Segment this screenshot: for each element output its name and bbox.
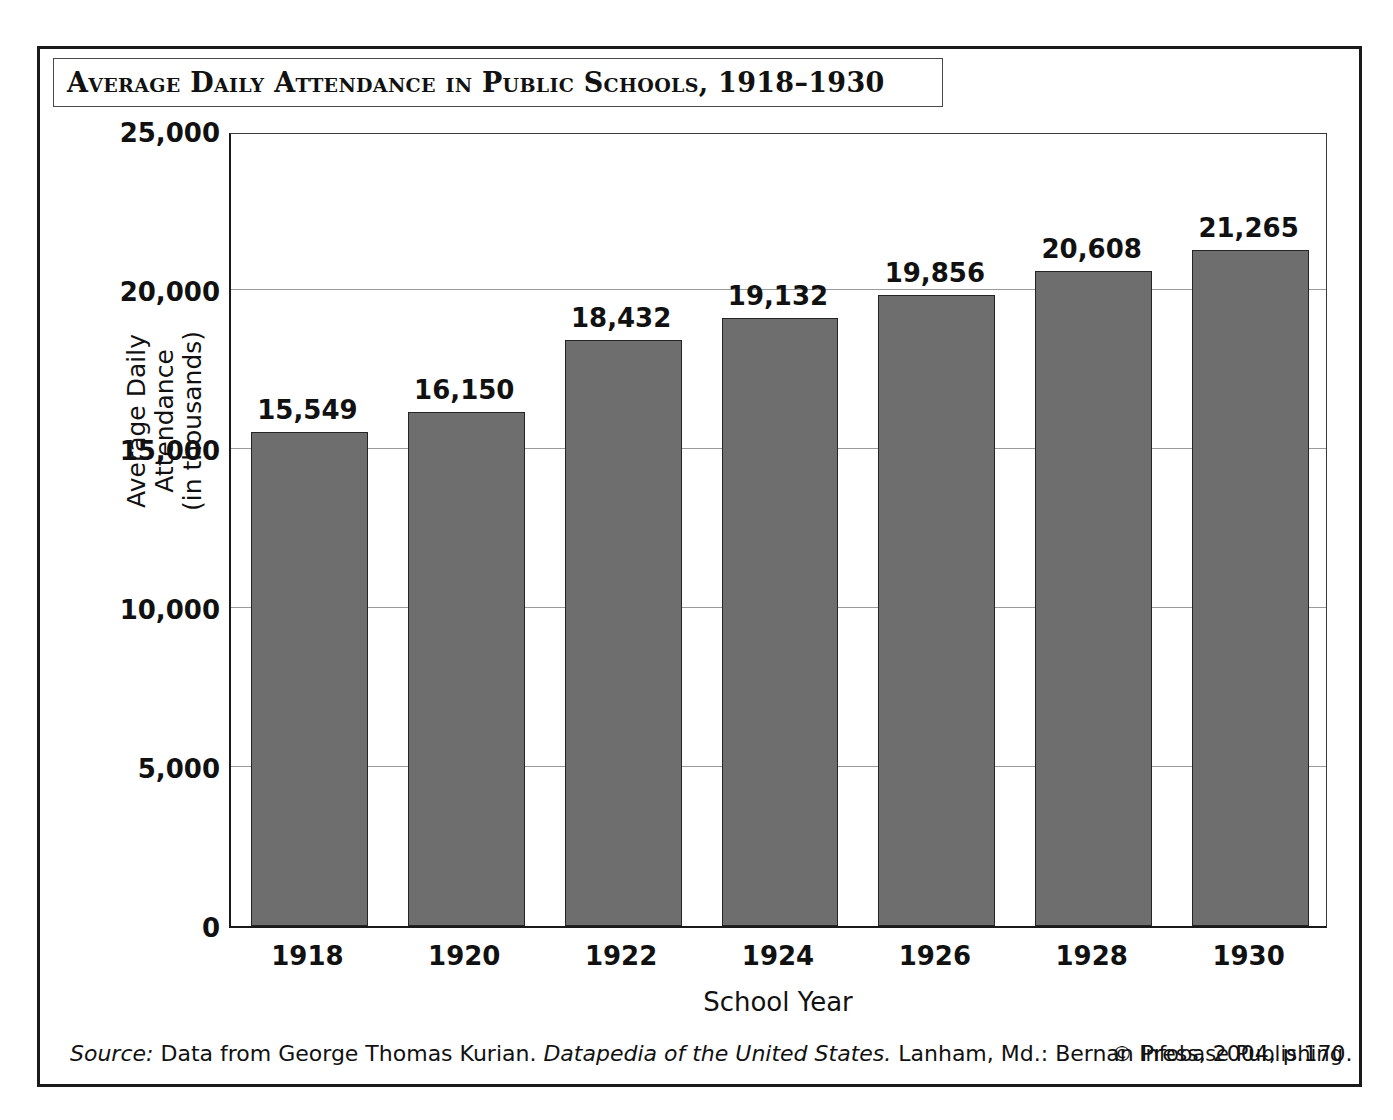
bar	[722, 318, 839, 926]
figure-frame: Average Daily Attendance in Public Schoo…	[37, 46, 1362, 1087]
x-tick-label: 1926	[856, 941, 1013, 971]
x-axis-tick-labels: 1918192019221924192619281930	[229, 941, 1327, 981]
bar-value-label: 19,132	[698, 281, 859, 311]
bar-value-label: 15,549	[227, 395, 388, 425]
chart-title-box: Average Daily Attendance in Public Schoo…	[53, 58, 943, 107]
y-tick-label: 5,000	[138, 754, 220, 784]
bar	[251, 432, 368, 926]
bar-value-label: 18,432	[541, 303, 702, 333]
x-axis-title: School Year	[229, 987, 1327, 1017]
y-tick-label: 10,000	[120, 595, 220, 625]
x-tick-label: 1918	[229, 941, 386, 971]
y-tick-label: 25,000	[120, 118, 220, 148]
bar-value-label: 16,150	[384, 375, 545, 405]
bar-value-label: 19,856	[854, 258, 1015, 288]
bar	[408, 412, 525, 926]
x-tick-label: 1922	[543, 941, 700, 971]
y-axis-title: Average Daily Attendance (in thousands)	[123, 271, 207, 571]
x-tick-label: 1930	[1170, 941, 1327, 971]
bar	[1035, 271, 1152, 926]
bar-value-label: 21,265	[1168, 213, 1329, 243]
y-axis-title-line2: (in thousands)	[179, 271, 207, 571]
bar	[1192, 250, 1309, 926]
x-tick-label: 1920	[386, 941, 543, 971]
source-label: Source:	[70, 1041, 153, 1066]
x-tick-label: 1924	[700, 941, 857, 971]
page-title: Average Daily Attendance in Public Schoo…	[67, 67, 885, 98]
x-tick-label: 1928	[1013, 941, 1170, 971]
source-text-1: Data from George Thomas Kurian.	[153, 1041, 543, 1066]
y-axis-title-line1: Average Daily Attendance	[123, 271, 179, 571]
bar-value-label: 20,608	[1011, 234, 1172, 264]
y-tick-label: 0	[202, 913, 220, 943]
bar	[878, 295, 995, 926]
bar	[565, 340, 682, 926]
page-edge-artifact	[1060, 0, 1350, 14]
publisher-credit: © Infobase Publishing	[1112, 1042, 1343, 1066]
source-publication-title: Datapedia of the United States.	[543, 1041, 891, 1066]
